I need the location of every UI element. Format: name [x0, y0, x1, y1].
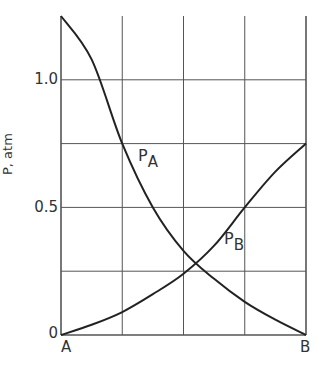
y-tick-0: 0: [18, 324, 58, 342]
y-tick-0.5: 0.5: [18, 198, 58, 216]
y-axis-label: P, atm: [0, 133, 15, 175]
curve-label-pb: PB: [224, 229, 244, 254]
x-tick-a: A: [61, 338, 71, 356]
x-tick-b: B: [300, 338, 310, 356]
grid-lines: [61, 16, 306, 335]
y-tick-1.0: 1.0: [18, 70, 58, 88]
curve-label-pa: PA: [138, 146, 158, 171]
chart-canvas: [0, 0, 321, 368]
